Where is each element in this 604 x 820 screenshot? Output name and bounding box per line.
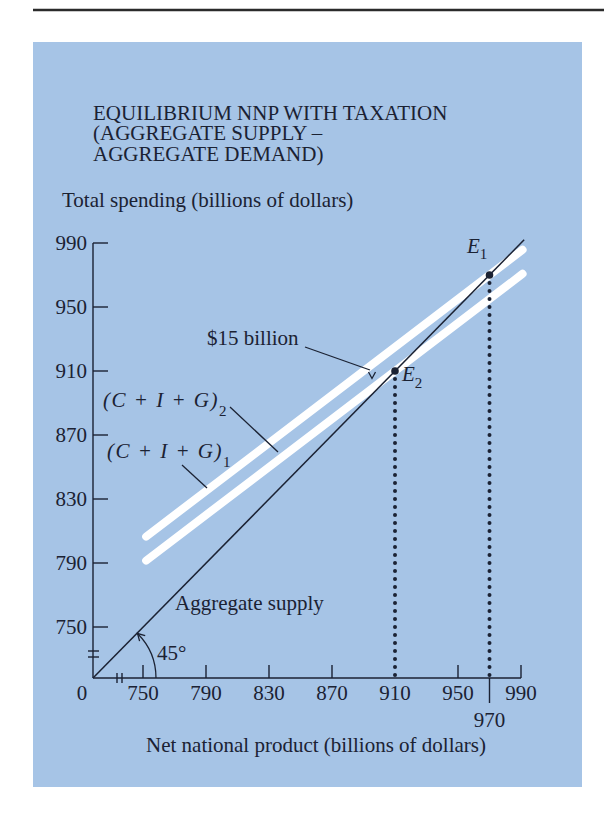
y-tick-label: 870 xyxy=(56,423,88,447)
x-axis-title: Net national product (billions of dollar… xyxy=(146,733,486,757)
chart-figure: EQUILIBRIUM NNP WITH TAXATION (AGGREGATE… xyxy=(0,0,604,820)
x-tick-label: 990 xyxy=(505,681,537,705)
e1-subscript: 1 xyxy=(480,246,488,262)
x-tick-label: 950 xyxy=(442,681,474,705)
y-tick-label: 830 xyxy=(56,487,88,511)
x-tick-label: 870 xyxy=(316,681,348,705)
cig-2-label-subscript: 2 xyxy=(219,403,227,419)
equilibrium-point-e1 xyxy=(486,271,494,279)
y-axis-title: Total spending (billions of dollars) xyxy=(62,188,353,212)
cig-1-label-subscript: 1 xyxy=(223,454,231,470)
equilibrium-point-e2 xyxy=(391,367,399,375)
y-tick-label: 910 xyxy=(56,359,88,383)
cig-2-label-main: (C + I + G) xyxy=(103,388,219,412)
figure-title-line-3: AGGREGATE DEMAND) xyxy=(93,142,323,166)
x-tick-label: 830 xyxy=(253,681,285,705)
aggregate-supply-label: Aggregate supply xyxy=(175,591,324,615)
y-tick-label: 950 xyxy=(56,295,88,319)
angle-label: 45° xyxy=(157,641,186,665)
x-tick-label: 790 xyxy=(190,681,222,705)
y-tick-label: 750 xyxy=(56,615,88,639)
x-tick-label: 910 xyxy=(379,681,411,705)
e1-letter: E xyxy=(466,234,480,258)
e2-subscript: 2 xyxy=(415,375,423,391)
tax-gap-label: $15 billion xyxy=(207,326,299,350)
y-tick-label: 990 xyxy=(56,231,88,255)
e2-letter: E xyxy=(401,362,415,386)
x-tick-label-extra: 970 xyxy=(474,708,506,732)
x-tick-label: 750 xyxy=(127,681,159,705)
cig-1-label-main: (C + I + G) xyxy=(107,439,223,463)
y-tick-label: 790 xyxy=(56,551,88,575)
origin-label: 0 xyxy=(77,681,88,705)
